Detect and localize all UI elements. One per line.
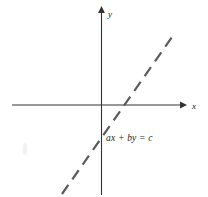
linear-equation-figure: x y ax + by = c [0,0,208,197]
paper-smudge-artifact [23,143,28,155]
x-axis-label: x [191,101,196,111]
equation-line [62,37,172,194]
x-axis-arrowhead-icon [180,102,187,109]
y-axis: y [98,6,112,195]
y-axis-arrowhead-icon [98,6,105,13]
figure-canvas: x y ax + by = c [0,0,208,197]
equation-annotation: ax + by = c [106,133,153,143]
y-axis-label: y [107,9,112,19]
x-axis: x [12,101,196,111]
